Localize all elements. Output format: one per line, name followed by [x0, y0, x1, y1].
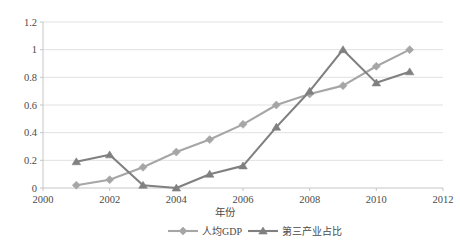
x-tick-label: 2004	[166, 194, 188, 205]
data-point-marker	[206, 136, 214, 144]
legend-item-2[interactable]: 第三产业占比	[248, 225, 342, 237]
x-axis-title: 年份	[215, 206, 236, 218]
data-point-marker	[406, 46, 414, 54]
diamond-marker-icon	[179, 227, 187, 235]
data-point-marker	[106, 176, 114, 184]
legend-label: 人均GDP	[202, 226, 242, 237]
data-point-marker	[172, 148, 180, 156]
x-tick-label: 2002	[99, 194, 120, 205]
data-series-group	[72, 46, 414, 191]
gridlines	[43, 22, 443, 160]
x-axis-tick-labels: 2000200220042006200820102012	[33, 194, 454, 205]
x-tick-label: 2000	[33, 194, 54, 205]
y-tick-label: 0.4	[24, 127, 38, 138]
x-tick-label: 2008	[299, 194, 320, 205]
data-point-marker	[339, 46, 348, 53]
data-point-marker	[405, 68, 414, 75]
y-tick-label: 0	[32, 183, 37, 194]
line-chart: 00.20.40.60.811.2 2000200220042006200820…	[0, 0, 460, 245]
series-2	[72, 46, 414, 191]
legend-item-1[interactable]: 人均GDP	[168, 226, 242, 237]
y-tick-label: 1.2	[24, 17, 37, 28]
chart-legend: 人均GDP第三产业占比	[168, 225, 342, 237]
chart-canvas: 00.20.40.60.811.2 2000200220042006200820…	[0, 0, 460, 245]
x-tick-label: 2006	[233, 194, 254, 205]
x-tick-label: 2010	[366, 194, 387, 205]
legend-label: 第三产业占比	[282, 225, 342, 237]
y-tick-label: 0.8	[24, 72, 37, 83]
x-tick-label: 2012	[433, 194, 454, 205]
y-tick-label: 0.6	[24, 100, 37, 111]
data-point-marker	[139, 163, 147, 171]
y-axis-tick-labels: 00.20.40.60.811.2	[24, 17, 38, 194]
y-tick-label: 1	[32, 44, 37, 55]
y-tick-label: 0.2	[24, 155, 37, 166]
